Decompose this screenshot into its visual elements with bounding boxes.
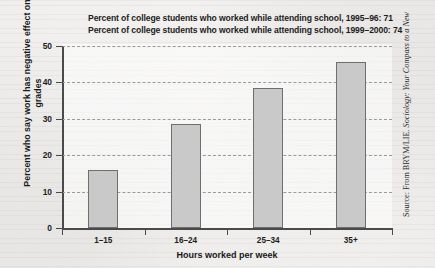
y-axis-tick	[56, 46, 63, 47]
x-axis-tick	[310, 228, 311, 235]
chart-title: Percent of college students who worked w…	[88, 13, 408, 36]
y-axis-title: Percent who say work has negative effect…	[22, 0, 44, 188]
source-prefix: Source: From BRYM/LIE.	[402, 129, 411, 217]
x-axis-tick	[62, 228, 63, 235]
bar	[88, 170, 118, 228]
chart-title-line-1: Percent of college students who worked w…	[88, 13, 408, 25]
bar	[253, 88, 283, 228]
x-axis-tick	[227, 228, 228, 235]
source-credit: Source: From BRYM/LIE. Sociology: Your C…	[402, 0, 411, 230]
x-axis-title: Hours worked per week	[62, 250, 392, 260]
x-axis-tick	[392, 228, 393, 235]
x-axis-tick-label: 25–34	[233, 236, 303, 245]
bar	[336, 62, 366, 228]
x-axis-tick-label: 35+	[316, 236, 386, 245]
y-axis-line	[62, 46, 64, 229]
y-axis-tick-label: 0	[26, 223, 52, 233]
source-title: Sociology: Your Compass to a New	[402, 12, 411, 127]
figure-container: Percent of college students who worked w…	[0, 0, 435, 268]
x-axis-tick-label: 16–24	[151, 236, 221, 245]
y-axis-tick	[56, 192, 63, 193]
y-axis-tick	[56, 119, 63, 120]
y-axis-tick-label: 10	[26, 187, 52, 197]
y-axis-tick	[56, 155, 63, 156]
y-axis-tick	[56, 82, 63, 83]
bar	[171, 124, 201, 228]
x-axis-tick-label: 1–15	[68, 236, 138, 245]
gridline	[62, 46, 392, 47]
chart-title-line-2: Percent of college students who worked w…	[88, 25, 408, 37]
x-axis-tick	[145, 228, 146, 235]
